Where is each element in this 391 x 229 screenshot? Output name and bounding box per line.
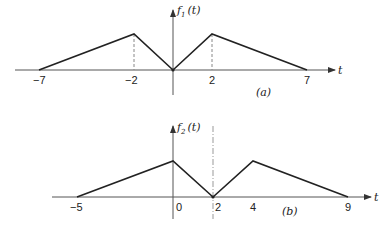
plot-b: f2(t) t −5 0 2 4 9 (b) — [52, 121, 379, 219]
plot-a: f1(t) t −7 −2 2 7 (a) — [15, 4, 343, 99]
tick-b-neg5: −5 — [70, 201, 83, 213]
tick-b-0: 0 — [176, 201, 182, 213]
t-label-b: t — [374, 191, 379, 204]
tick-b-9: 9 — [345, 201, 351, 213]
caption-b: (b) — [282, 205, 298, 218]
tick-a-neg7: −7 — [33, 74, 46, 86]
tick-b-4: 4 — [250, 201, 256, 213]
tick-b-2: 2 — [215, 201, 221, 213]
t-label-a: t — [338, 64, 343, 77]
f1-label: f1(t) — [176, 4, 201, 19]
tick-a-7: 7 — [304, 74, 310, 86]
tick-a-neg2: −2 — [125, 74, 138, 86]
tick-a-2: 2 — [209, 74, 215, 86]
caption-a: (a) — [256, 86, 271, 99]
f2-label: f2(t) — [176, 121, 201, 136]
diagram: f1(t) t −7 −2 2 7 (a) f2(t) t −5 0 2 4 9… — [0, 0, 391, 229]
